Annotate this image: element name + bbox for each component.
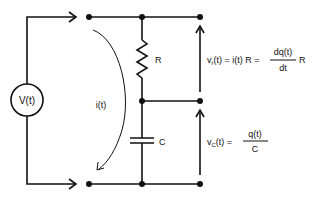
source-wire-bottom [27, 116, 75, 184]
capacitor-voltage-equation: vC(t) = q(t) C [207, 129, 268, 154]
vr-tail: R [299, 55, 306, 65]
node-bottom-left [86, 181, 92, 187]
node-top-right [197, 14, 203, 20]
node-top-mid [139, 14, 145, 20]
svg-text:vC(t) =: vC(t) = [207, 137, 232, 148]
resistor-icon [137, 40, 147, 78]
vr-expression: (t) = i(t) R = [214, 55, 260, 65]
node-top-left [86, 14, 92, 20]
vr-frac-den: dt [279, 63, 287, 73]
resistor-voltage-equation: vr(t) = i(t) R = dq(t) dt R [207, 47, 306, 73]
node-mid-left [139, 98, 145, 104]
source-label: V(t) [19, 95, 35, 106]
vc-expression: (t) = [216, 137, 232, 147]
node-mid-right [197, 98, 203, 104]
capacitor-icon [130, 138, 154, 143]
vr-frac-num: dq(t) [274, 47, 293, 57]
capacitor-label: C [159, 137, 166, 147]
resistor-label: R [155, 55, 162, 65]
vc-frac-den: C [252, 144, 259, 154]
node-bottom-mid [139, 181, 145, 187]
current-label: i(t) [96, 100, 107, 110]
node-bottom-right [197, 181, 203, 187]
svg-text:vr(t) = i(t) R =: vr(t) = i(t) R = [207, 55, 260, 66]
circuit-diagram: V(t) i(t) R C vr(t) = i(t) R = dq(t) dt … [0, 0, 319, 199]
vc-frac-num: q(t) [248, 129, 262, 139]
source-wire-top [27, 17, 75, 84]
